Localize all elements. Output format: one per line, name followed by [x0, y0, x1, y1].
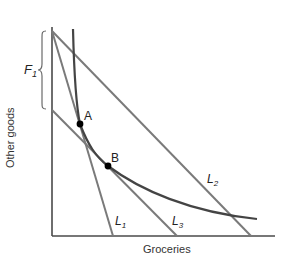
- point-b-label: B: [111, 151, 119, 165]
- l2-label-main: L: [207, 172, 214, 186]
- y-axis-title: Other goods: [4, 107, 16, 168]
- f1-bracket: [38, 31, 46, 109]
- f1-label-sub: 1: [32, 69, 37, 79]
- l2-label-sub: 2: [213, 179, 219, 188]
- x-axis-title: Groceries: [143, 243, 191, 255]
- point-a-label: A: [84, 109, 92, 123]
- indifference-curve: [73, 29, 257, 219]
- l1-label-main: L: [115, 214, 122, 228]
- l3-label: L3: [172, 214, 184, 230]
- l3-label-main: L: [172, 214, 179, 228]
- f1-label: F1: [24, 62, 37, 79]
- point-a-marker: [77, 121, 84, 128]
- l2-label: L2: [207, 172, 219, 188]
- l3-label-sub: 3: [179, 221, 184, 230]
- diagram-canvas: A B F1 L1 L3 L2 Groceries Other goods: [0, 0, 282, 262]
- l1-label-sub: 1: [122, 221, 126, 230]
- l1-label: L1: [115, 214, 126, 230]
